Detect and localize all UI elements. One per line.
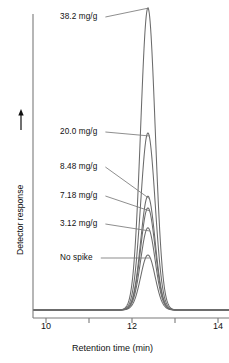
chromatogram-plot	[0, 0, 229, 363]
peak-label-5: 3.12 mg/g	[60, 220, 97, 228]
x-tick-label-14: 14	[210, 322, 226, 331]
peak-label-2: 20.0 mg/g	[60, 128, 97, 136]
chromatogram-figure: 38.2 mg/g20.0 mg/g8.48 mg/g7.18 mg/g3.12…	[0, 0, 229, 363]
x-axis-title: Retention time (min)	[72, 344, 153, 353]
y-axis-title: Detector response	[16, 185, 25, 255]
peak-label-6: No spike	[60, 254, 93, 262]
axis-lines	[18, 14, 229, 323]
peak-label-4: 7.18 mg/g	[60, 192, 97, 200]
peak-label-1: 38.2 mg/g	[60, 13, 97, 21]
x-tick-label-12: 12	[124, 322, 140, 331]
peak-traces	[33, 8, 229, 310]
x-tick-label-10: 10	[38, 322, 54, 331]
peak-label-3: 8.48 mg/g	[60, 163, 97, 171]
